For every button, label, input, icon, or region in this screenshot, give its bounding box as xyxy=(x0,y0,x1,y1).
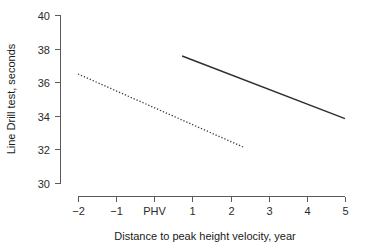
x-tick-label: −2 xyxy=(72,205,85,217)
chart-figure: 303234363840 −2−1PHV12345 Distance to pe… xyxy=(0,0,365,251)
x-tick-label: 1 xyxy=(189,205,195,217)
x-tick-label: 5 xyxy=(342,205,348,217)
x-axis-ticks: −2−1PHV12345 xyxy=(72,197,348,218)
y-tick-label: 40 xyxy=(38,10,50,22)
chart-series-group xyxy=(78,56,345,147)
series-line-dotted xyxy=(78,74,243,147)
y-tick-label: 30 xyxy=(38,178,50,190)
y-axis-title: Line Drill test, seconds xyxy=(5,43,17,154)
x-axis-title: Distance to peak height velocity, year xyxy=(114,230,296,242)
x-tick-label: 2 xyxy=(228,205,234,217)
series-line-solid xyxy=(182,56,345,119)
x-tick-label: 4 xyxy=(304,205,310,217)
x-tick-label: −1 xyxy=(110,205,123,217)
line-chart: 303234363840 −2−1PHV12345 Distance to pe… xyxy=(0,0,365,251)
y-tick-label: 32 xyxy=(38,144,50,156)
x-tick-label: PHV xyxy=(143,205,166,217)
y-tick-label: 38 xyxy=(38,44,50,56)
x-tick-label: 3 xyxy=(266,205,272,217)
y-tick-label: 34 xyxy=(38,111,50,123)
y-axis-ticks: 303234363840 xyxy=(38,10,61,190)
y-tick-label: 36 xyxy=(38,77,50,89)
